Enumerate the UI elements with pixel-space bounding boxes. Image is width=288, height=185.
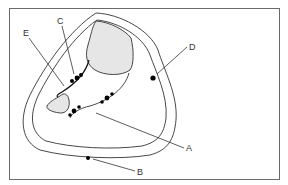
shaded-region-large [86,21,133,75]
leader-e [29,38,64,86]
dot-cluster-a-upper [100,92,114,104]
dot-cluster-lower [68,105,81,117]
cross-section-diagram: E C D A B [0,0,288,185]
leader-b [93,159,135,171]
label-e: E [23,28,29,38]
label-a: A [186,143,192,153]
middle-band-lower [70,73,129,118]
dot-d [150,75,155,80]
dot-b [86,156,90,160]
label-b: B [137,167,143,177]
middle-band-upper [57,60,89,97]
label-c: C [57,16,64,26]
label-d: D [189,42,196,52]
leader-a [96,113,184,148]
